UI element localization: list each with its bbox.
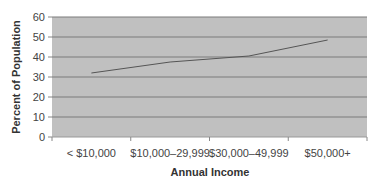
x-axis-title: Annual Income [171,166,250,178]
x-tick-label: $50,000+ [305,147,351,159]
x-tick-label: < $10,000 [67,147,116,159]
y-axis-title: Percent of Population [10,20,22,134]
x-tick-label: $10,000–29,999 [130,147,210,159]
line-chart: 0102030405060 < $10,000$10,000–29,999$30… [0,0,381,185]
x-axis-ticks: < $10,000$10,000–29,999$30,000–49,999$50… [52,137,367,159]
y-axis-ticks: 0102030405060 [33,11,52,143]
y-tick-label: 30 [33,71,45,83]
y-tick-label: 60 [33,11,45,23]
x-tick-label: $30,000–49,999 [209,147,289,159]
y-tick-label: 40 [33,51,45,63]
y-tick-label: 50 [33,31,45,43]
y-tick-label: 10 [33,111,45,123]
y-tick-label: 0 [39,131,45,143]
y-tick-label: 20 [33,91,45,103]
